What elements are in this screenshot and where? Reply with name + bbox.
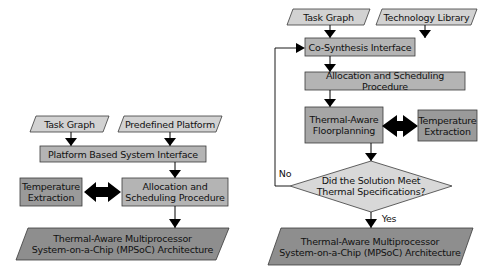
- arrow-down-icon: [169, 170, 181, 178]
- arrow-down-icon: [365, 153, 377, 161]
- right-input-task-graph: Task Graph: [287, 9, 370, 25]
- left-interface-label: Platform Based System Interface: [48, 149, 198, 160]
- decision-box: Did the Solution Meet Thermal Specificat…: [315, 172, 427, 200]
- right-output-label-1: Thermal-Aware Multiprocessor: [301, 236, 439, 247]
- no-feedback-line: [275, 48, 297, 186]
- right-floorplanning-label-1: Thermal-Aware: [310, 114, 379, 125]
- arrow-down-icon: [324, 99, 336, 107]
- right-interface-box: Co-Synthesis Interface: [305, 38, 415, 56]
- arrow-right-icon: [296, 43, 305, 53]
- right-temperature-label-1: Temperature: [419, 115, 477, 126]
- arrow-down-icon: [365, 219, 377, 228]
- right-output-box: Thermal-Aware Multiprocessor System-on-a…: [272, 232, 468, 262]
- right-temperature-label-2: Extraction: [424, 126, 471, 137]
- right-interface-label: Co-Synthesis Interface: [308, 42, 411, 53]
- arrow-down-icon: [65, 138, 77, 146]
- bidirectional-arrow-icon: [382, 115, 418, 137]
- right-allocation-label: Allocation and Scheduling Procedure: [305, 70, 465, 92]
- left-allocation-box: Allocation and Scheduling Procedure: [122, 178, 228, 206]
- decision-label-1: Did the Solution Meet: [322, 175, 421, 186]
- left-interface-box: Platform Based System Interface: [40, 146, 206, 162]
- left-temperature-label-1: Temperature: [22, 181, 80, 192]
- arrow-down-icon: [419, 30, 431, 38]
- left-input-task-graph-label: Task Graph: [44, 119, 95, 130]
- no-label-text: No: [279, 168, 292, 179]
- arrow-down-icon: [164, 138, 176, 146]
- left-output-label-1: Thermal-Aware Multiprocessor: [53, 233, 191, 244]
- arrow-down-icon: [324, 30, 336, 38]
- bidirectional-arrow-icon: [84, 182, 121, 202]
- right-floorplanning-label-2: Floorplanning: [313, 125, 375, 136]
- right-floorplanning-box: Thermal-Aware Floorplanning: [305, 107, 383, 143]
- right-input-technology-library: Technology Library: [376, 9, 477, 25]
- yes-label-text: Yes: [382, 213, 397, 224]
- left-output-label-2: System-on-a-Chip (MPSoC) Architecture: [32, 244, 213, 255]
- arrow-down-icon: [169, 219, 181, 228]
- left-allocation-label-1: Allocation and: [143, 181, 208, 192]
- right-input-task-graph-label: Task Graph: [303, 12, 354, 23]
- no-branch-label: No: [276, 167, 294, 179]
- left-temperature-box: Temperature Extraction: [20, 178, 82, 206]
- decision-label-2: Thermal Specifications?: [317, 186, 426, 197]
- right-allocation-box: Allocation and Scheduling Procedure: [305, 72, 465, 90]
- left-input-predefined-platform-label: Predefined Platform: [125, 119, 215, 130]
- left-temperature-label-2: Extraction: [28, 192, 75, 203]
- left-input-task-graph: Task Graph: [30, 116, 109, 132]
- left-output-box: Thermal-Aware Multiprocessor System-on-a…: [20, 230, 225, 258]
- left-allocation-label-2: Scheduling Procedure: [125, 192, 224, 203]
- right-input-technology-library-label: Technology Library: [384, 12, 470, 23]
- right-output-label-2: System-on-a-Chip (MPSoC) Architecture: [279, 247, 460, 258]
- left-input-predefined-platform: Predefined Platform: [118, 116, 222, 132]
- right-temperature-box: Temperature Extraction: [418, 110, 477, 141]
- yes-branch-label: Yes: [378, 212, 400, 224]
